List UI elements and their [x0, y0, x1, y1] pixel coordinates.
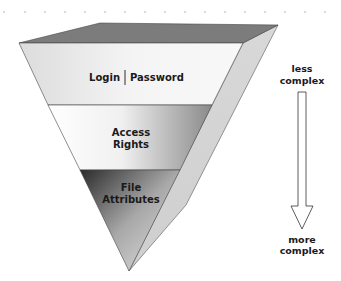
pyramid-diagram: Login Password Access Rights File Attrib… — [0, 0, 341, 281]
label-less-complex: complex — [280, 75, 325, 86]
label-more-complex: complex — [280, 245, 325, 256]
label-password: Password — [130, 72, 184, 83]
label-login: Login — [89, 72, 120, 83]
label-file: File — [121, 182, 142, 193]
label-more: more — [288, 234, 316, 245]
label-access: Access — [112, 127, 150, 138]
label-attributes: Attributes — [102, 194, 159, 205]
label-less: less — [291, 63, 312, 74]
pyramid-top-face — [19, 23, 278, 43]
label-rights: Rights — [113, 139, 149, 150]
dotted-border — [3, 11, 325, 12]
arrow-down-icon — [291, 92, 313, 229]
